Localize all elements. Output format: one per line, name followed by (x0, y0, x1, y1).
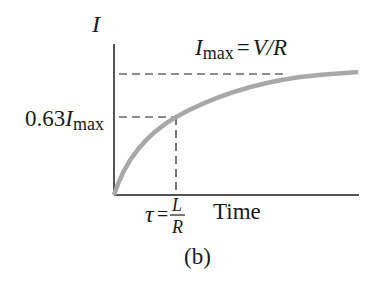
tau-label: τ = L R (145, 195, 185, 237)
imax-label: Imax=V/R (194, 35, 287, 63)
x-axis-label: Time (213, 199, 261, 224)
y-axis-label: I (91, 11, 101, 37)
level-coefficient: 0.63 (25, 106, 65, 131)
rl-current-growth-diagram: I Imax=V/R 0.63Imax τ = L R Time (b) (0, 0, 383, 285)
imax-equals: = (237, 35, 250, 60)
tau-symbol: τ (145, 201, 155, 227)
level-063-label: 0.63Imax (25, 106, 104, 134)
level-subscript: max (73, 114, 104, 134)
current-curve (114, 72, 358, 195)
imax-subscript: max (203, 43, 234, 63)
tau-denominator: R (171, 217, 183, 237)
imax-expression: V/R (253, 35, 288, 60)
tau-numerator: L (171, 195, 182, 215)
tau-equals: = (157, 203, 168, 225)
panel-label: (b) (184, 244, 211, 269)
